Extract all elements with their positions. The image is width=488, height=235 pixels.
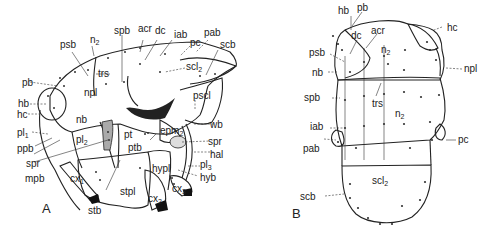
label-scl2: scl2 <box>372 175 388 187</box>
label-pl3: pl3 <box>200 159 212 171</box>
label-pt: pt <box>124 129 133 140</box>
label-ppb: ppb <box>17 143 34 154</box>
label-nb: nb <box>76 114 88 125</box>
label-pl2: pl2 <box>76 134 88 146</box>
label-hal: hal <box>210 149 223 160</box>
label-spr-left: spr <box>26 158 41 169</box>
label-hb: hb <box>18 98 30 109</box>
label-trs: trs <box>372 98 383 109</box>
label-scb: scb <box>300 191 316 202</box>
label-cx3: cx3 <box>172 183 186 195</box>
label-pc: pc <box>190 37 201 48</box>
label-stb: stb <box>88 205 102 216</box>
label-hb: hb <box>338 5 350 16</box>
label-pb: pb <box>22 77 34 88</box>
label-n2-anterior: n2 <box>381 44 391 56</box>
label-scb: scb <box>220 39 236 50</box>
panel-b-labels: hb pb psb dc acr hc nb n2 npl spb trs n2… <box>292 2 477 221</box>
label-stpl: stpl <box>120 186 136 197</box>
label-psb: psb <box>60 39 77 50</box>
label-trs: trs <box>98 68 109 79</box>
label-pl1: pl1 <box>17 127 29 139</box>
label-wb: wb <box>209 119 223 130</box>
label-npl: npl <box>464 63 477 74</box>
label-nb: nb <box>312 67 324 78</box>
label-epm2: epm2 <box>160 125 183 137</box>
label-spr-right: spr <box>208 136 223 147</box>
label-n2: n2 <box>90 34 100 46</box>
label-ptb: ptb <box>128 142 142 153</box>
label-npl: npl <box>84 87 97 98</box>
label-hc: hc <box>447 22 458 33</box>
label-mpb: mpb <box>25 173 45 184</box>
label-hc: hc <box>17 109 28 120</box>
label-spb: spb <box>114 25 131 36</box>
label-hyb: hyb <box>200 172 217 183</box>
label-dc: dc <box>351 30 362 41</box>
label-pab: pab <box>303 143 320 154</box>
panel-label-b: B <box>292 206 301 221</box>
label-iab: iab <box>310 121 324 132</box>
label-acr: acr <box>138 23 153 34</box>
label-scl2: scl2 <box>186 61 202 73</box>
label-hypl: hypl <box>152 163 170 174</box>
panel-b-drawing <box>324 12 462 225</box>
label-iab: iab <box>174 29 188 40</box>
thorax-diagram: n2 spb acr dc iab pab psb pc scb trs scl… <box>0 0 488 235</box>
label-pc: pc <box>458 134 469 145</box>
label-spb: spb <box>304 92 321 103</box>
panel-label-a: A <box>42 201 51 216</box>
label-n2-posterior: n2 <box>395 108 405 120</box>
label-acr: acr <box>371 25 386 36</box>
label-pab: pab <box>204 27 221 38</box>
label-cx2: cx2 <box>148 193 162 205</box>
label-psb: psb <box>309 47 326 58</box>
label-dc: dc <box>155 25 166 36</box>
label-pscl: pscl <box>193 90 211 101</box>
label-cx1: cx1 <box>70 173 84 185</box>
label-pb: pb <box>357 2 369 13</box>
